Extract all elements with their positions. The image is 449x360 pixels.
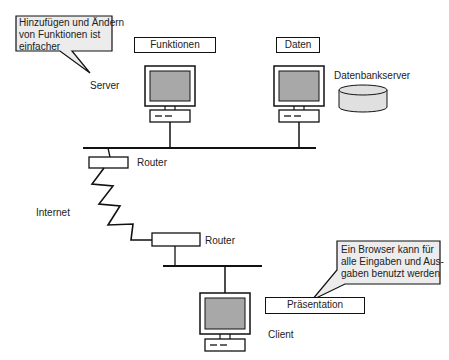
internet-link — [92, 168, 152, 240]
router-top-icon — [89, 148, 128, 168]
presentation-box: Präsentation — [265, 297, 365, 314]
server-label: Server — [90, 80, 119, 92]
callout-line: einfacher — [19, 41, 124, 53]
functions-box: Funktionen — [134, 37, 216, 53]
client-callout-text: Ein Browser kann für alle Eingaben und A… — [341, 244, 444, 280]
client-computer-icon — [200, 293, 250, 351]
db-server-computer-icon — [274, 66, 324, 148]
internet-label: Internet — [36, 207, 70, 219]
data-box: Daten — [276, 37, 320, 53]
router-bottom-icon — [152, 233, 200, 266]
db-server-label: Datenbankserver — [334, 70, 410, 82]
callout-line: alle Eingaben und Aus- — [341, 256, 444, 268]
router-bottom-label: Router — [205, 235, 235, 247]
callout-line: Hinzufügen und Ändern — [19, 17, 124, 29]
database-icon — [339, 85, 387, 112]
callout-line: von Funktionen ist — [19, 29, 124, 41]
callout-line: gaben benutzt werden — [341, 268, 444, 280]
callout-line: Ein Browser kann für — [341, 244, 444, 256]
server-computer-icon — [145, 66, 195, 148]
router-top-label: Router — [137, 157, 167, 169]
server-callout-text: Hinzufügen und Ändern von Funktionen ist… — [19, 17, 124, 53]
client-label: Client — [268, 329, 294, 341]
network-diagram — [0, 0, 449, 360]
